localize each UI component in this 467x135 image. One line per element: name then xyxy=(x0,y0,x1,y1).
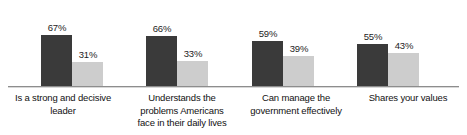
bar-pair: 66% 33% xyxy=(146,0,208,87)
bar-pair: 67% 31% xyxy=(41,0,103,87)
category-label-line: Is a strong and decisive xyxy=(0,92,126,105)
bar-pair: 55% 43% xyxy=(357,0,419,87)
bar-light-2 xyxy=(283,56,314,86)
bar-chart: 67% 31% 66% 33% 59% 39% xyxy=(0,0,467,135)
bar-dark-1 xyxy=(146,36,177,86)
category-label-0: Is a strong and decisiveleader xyxy=(0,92,126,117)
category-label-3: Shares your values xyxy=(352,92,464,105)
category-label-line: Shares your values xyxy=(352,92,464,105)
plot-area: 67% 31% 66% 33% 59% 39% xyxy=(0,0,467,87)
bar-group-shares-your-values: 55% 43% xyxy=(357,0,419,87)
bar-value-light-1: 33% xyxy=(173,48,213,59)
category-label-line: Understands the xyxy=(122,92,242,105)
bar-group-understands-the-problems-americans-face-in-their-daily-lives: 66% 33% xyxy=(146,0,208,87)
category-label-line: problems Americans xyxy=(122,105,242,118)
bar-group-is-a-strong-and-decisive-leader: 67% 31% xyxy=(41,0,103,87)
category-label-line: leader xyxy=(0,105,126,118)
category-label-line: government effectively xyxy=(236,105,356,118)
category-label-line: Can manage the xyxy=(236,92,356,105)
bar-value-light-3: 43% xyxy=(384,40,424,51)
bar-group-can-manage-the-government-effectively: 59% 39% xyxy=(252,0,314,87)
bar-value-dark-0: 67% xyxy=(37,22,77,33)
bar-light-0 xyxy=(72,62,103,86)
axis-baseline-shadow xyxy=(8,87,459,88)
bar-value-dark-1: 66% xyxy=(142,23,182,34)
bar-value-light-0: 31% xyxy=(68,49,108,60)
bar-light-3 xyxy=(388,53,419,86)
bar-value-dark-2: 59% xyxy=(248,28,288,39)
bar-dark-0 xyxy=(41,35,72,86)
bar-value-light-2: 39% xyxy=(279,43,319,54)
category-label-2: Can manage thegovernment effectively xyxy=(236,92,356,117)
category-label-1: Understands theproblems Americansface in… xyxy=(122,92,242,130)
bar-light-1 xyxy=(177,61,208,86)
bar-pair: 59% 39% xyxy=(252,0,314,87)
category-label-line: face in their daily lives xyxy=(122,117,242,130)
category-axis-labels: Is a strong and decisiveleader Understan… xyxy=(0,92,467,135)
